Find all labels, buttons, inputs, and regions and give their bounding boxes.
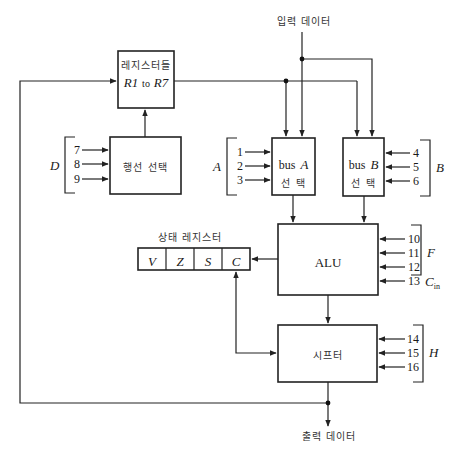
flag-z: Z <box>166 252 194 272</box>
control-line-13: 13 <box>408 275 420 287</box>
control-line-4: 4 <box>413 147 419 159</box>
shifter-label: 시프터 <box>278 348 377 363</box>
cin-c: C <box>425 274 434 289</box>
bus-a-label: bus A 선 택 <box>272 152 315 191</box>
register-to: to <box>142 78 150 89</box>
register-r1: R1 <box>124 75 138 90</box>
line-select-label: 행선 선택 <box>110 160 181 175</box>
output-data-label: 출력 데이터 <box>302 432 356 442</box>
diagram-canvas <box>0 0 459 453</box>
cin-label: Cin <box>425 275 440 291</box>
group-f-label: F <box>427 246 435 259</box>
flag-v: V <box>138 252 166 272</box>
control-line-11: 11 <box>408 247 420 259</box>
group-b-label: B <box>436 161 444 174</box>
registers-label: 레지스터들 R1 to R7 <box>118 58 174 93</box>
bus-a-letter: A <box>300 157 308 172</box>
control-line-10: 10 <box>408 233 420 245</box>
register-r7: R7 <box>154 75 168 90</box>
group-d-label: D <box>50 159 59 172</box>
control-line-1: 1 <box>237 146 243 158</box>
registers-title: 레지스터들 <box>118 58 174 73</box>
bus-b-bus-text: bus <box>349 158 366 172</box>
input-data-label: 입력 데이터 <box>277 17 331 27</box>
junction-dot <box>284 79 289 84</box>
control-line-14: 14 <box>407 333 419 345</box>
control-line-5: 5 <box>413 161 419 173</box>
control-line-12: 12 <box>408 261 420 273</box>
bus-a-bus-text: bus <box>279 158 296 172</box>
bus-a-select-text: 선 택 <box>272 176 315 191</box>
control-line-9: 9 <box>74 173 80 185</box>
flag-s: S <box>194 252 222 272</box>
group-h-label: H <box>429 346 438 359</box>
control-line-16: 16 <box>407 361 419 373</box>
group-a-label: A <box>213 160 221 173</box>
control-line-15: 15 <box>407 347 419 359</box>
control-line-2: 2 <box>237 160 243 172</box>
junction-dot <box>300 57 305 62</box>
alu-label: ALU <box>278 253 378 273</box>
control-line-3: 3 <box>237 174 243 186</box>
bus-b-label: bus B 선 택 <box>343 152 384 191</box>
status-register-title: 상태 레지스터 <box>158 233 222 243</box>
bus-b-select-text: 선 택 <box>343 176 384 191</box>
flag-c: C <box>222 252 250 272</box>
bus-b-letter: B <box>370 157 378 172</box>
control-line-7: 7 <box>74 144 80 156</box>
junction-dot <box>326 401 331 406</box>
cin-subscript: in <box>434 282 440 291</box>
control-line-6: 6 <box>413 175 419 187</box>
control-line-8: 8 <box>74 158 80 170</box>
